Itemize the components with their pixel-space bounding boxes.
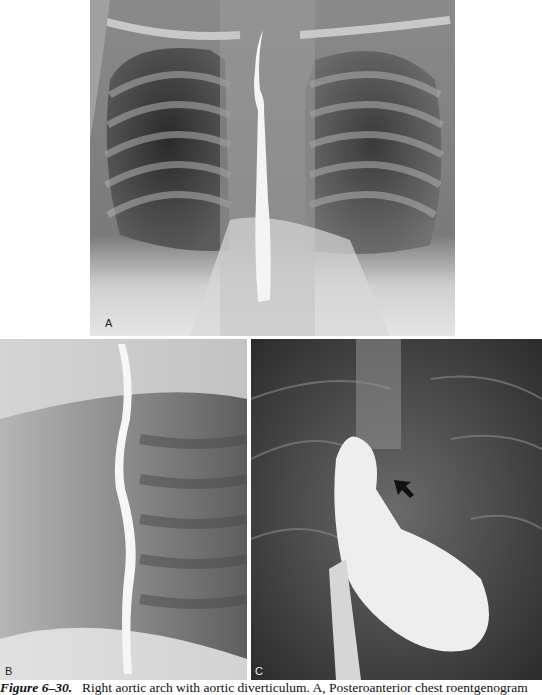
figure-panel-b bbox=[0, 339, 247, 680]
angiogram-image-c bbox=[251, 339, 542, 680]
figure-number: Figure 6–30. bbox=[0, 680, 72, 695]
radiograph-image-b bbox=[0, 339, 247, 680]
figure-caption: Figure 6–30.Right aortic arch with aorti… bbox=[0, 681, 542, 695]
figure-panel-c bbox=[251, 339, 542, 680]
caption-text: Right aortic arch with aortic diverticul… bbox=[82, 680, 528, 695]
radiograph-image-a bbox=[90, 0, 455, 336]
panel-label-b: B bbox=[5, 666, 12, 677]
panel-label-c: C bbox=[255, 666, 263, 677]
panel-label-a: A bbox=[105, 318, 112, 329]
figure-panel-a bbox=[90, 0, 455, 336]
